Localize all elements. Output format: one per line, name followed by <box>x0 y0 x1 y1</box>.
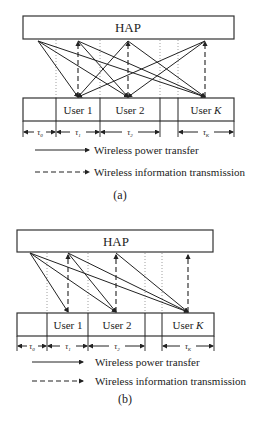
tau-1-label: τ1 <box>75 128 80 138</box>
power-transfer-lines <box>30 253 188 312</box>
legend-b: Wireless power transfer Wireless informa… <box>32 356 247 387</box>
caption-a: (a) <box>113 188 126 202</box>
user-slots-row: User 1 User 2 User K <box>23 98 234 121</box>
user-2-label: User 2 <box>115 104 144 116</box>
legend-power-transfer: Wireless power transfer <box>94 144 199 156</box>
hap-label: HAP <box>115 20 141 35</box>
tau-0-label: τ0 <box>37 128 43 138</box>
legend-power-transfer: Wireless power transfer <box>95 356 200 368</box>
legend-a: Wireless power transfer Wireless informa… <box>35 144 246 178</box>
legend-information-transmission: Wireless information transmission <box>94 166 246 178</box>
tau-2-label: τ2 <box>127 128 133 138</box>
diagram-canvas: HAP <box>0 0 259 421</box>
tau-durations: τ0 τ1 τ2 τK <box>23 121 234 138</box>
tau-0-label: τ0 <box>29 342 35 352</box>
figure-a: HAP <box>23 16 246 202</box>
tau-k-label: τK <box>203 128 210 138</box>
legend-information-transmission: Wireless information transmission <box>95 375 247 387</box>
user-k-label: User K <box>191 104 223 116</box>
tau-2-label: τ2 <box>114 342 120 352</box>
hap-label: HAP <box>103 234 129 249</box>
slot-guides <box>56 40 178 98</box>
power-transfer-lines <box>38 41 205 97</box>
user-1-label: User 1 <box>63 104 92 116</box>
tau-1-label: τ1 <box>65 342 70 352</box>
user-2-label: User 2 <box>102 319 131 331</box>
tau-k-label: τK <box>185 342 192 352</box>
user-k-label: User K <box>173 319 205 331</box>
user-1-label: User 1 <box>53 319 82 331</box>
figure-b: HAP User 1 User 2 <box>17 230 247 406</box>
user-slots-row: User 1 User 2 User K <box>17 313 214 336</box>
caption-b: (b) <box>118 392 132 406</box>
tau-durations: τ0 τ1 τ2 τK <box>17 336 214 352</box>
